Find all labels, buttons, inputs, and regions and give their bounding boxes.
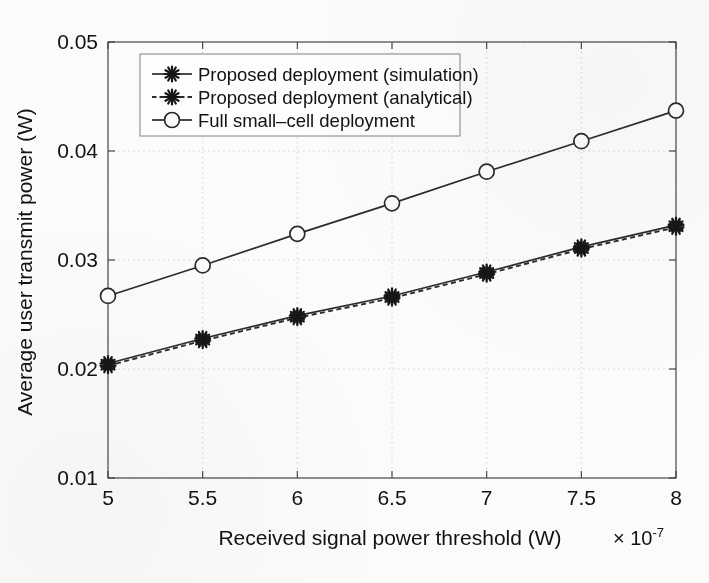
x-tick-label: 7.5: [567, 486, 596, 509]
x-tick-label: 6: [291, 486, 303, 509]
y-tick-label: 0.03: [57, 248, 98, 271]
circle-marker: [385, 196, 400, 211]
y-tick-label: 0.04: [57, 139, 98, 162]
x-axis-label: Received signal power threshold (W): [218, 526, 561, 549]
x-axis-multiplier-base: × 10: [613, 527, 652, 549]
y-axis-label: Average user transmit power (W): [13, 108, 36, 416]
circle-marker: [574, 134, 589, 149]
legend-item-label: Full small–cell deployment: [198, 110, 415, 131]
circle-marker: [290, 226, 305, 241]
x-tick-label: 7: [481, 486, 493, 509]
legend-item-label: Proposed deployment (simulation): [198, 64, 479, 85]
chart-legend[interactable]: Proposed deployment (simulation)Proposed…: [140, 54, 479, 136]
x-tick-label: 6.5: [377, 486, 406, 509]
circle-marker: [101, 288, 116, 303]
x-axis-multiplier-exponent: -7: [652, 525, 664, 540]
x-tick-label: 5.5: [188, 486, 217, 509]
legend-item-label: Proposed deployment (analytical): [198, 87, 473, 108]
circle-marker: [479, 164, 494, 179]
legend-circle-icon: [165, 113, 180, 128]
y-tick-label: 0.01: [57, 466, 98, 489]
y-tick-label: 0.02: [57, 357, 98, 380]
figure-container: 55.566.577.58 0.010.020.030.040.05 Avera…: [0, 0, 709, 583]
x-tick-label: 5: [102, 486, 114, 509]
x-tick-label: 8: [670, 486, 682, 509]
circle-marker: [669, 103, 684, 118]
circle-marker: [195, 258, 210, 273]
line-chart: 55.566.577.58 0.010.020.030.040.05 Avera…: [0, 0, 709, 583]
y-tick-label: 0.05: [57, 30, 98, 53]
